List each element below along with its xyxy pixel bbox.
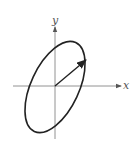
- x-axis-label: x: [123, 79, 130, 92]
- y-axis-label: y: [51, 14, 59, 27]
- vector-arrow: [55, 60, 86, 86]
- ellipse-vector-diagram: y x: [0, 0, 140, 159]
